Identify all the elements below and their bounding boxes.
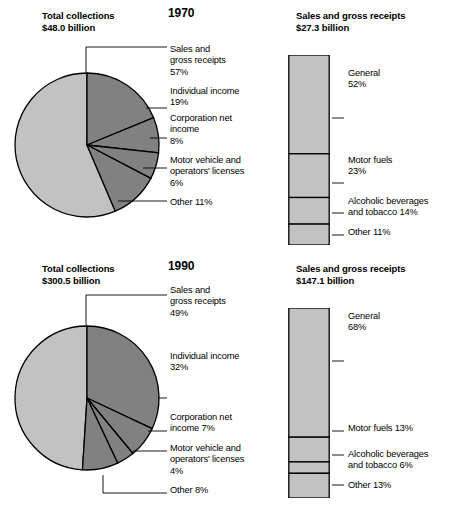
stacked-bar-1970: [288, 55, 330, 245]
right-subtitle: $147.1 billion: [296, 275, 354, 286]
bar-label-1970-3-line-0: Other 11%: [348, 227, 390, 237]
bar-label-1990-0: General68%: [348, 311, 380, 334]
bar-label-1970-2: Alcoholic beveragesand tobacco 14%: [348, 196, 428, 219]
pie-label-1970-2-line-1: income: [170, 124, 199, 134]
bar-label-1990-2-line-0: Alcoholic beverages: [348, 449, 428, 459]
bar-label-1990-2: Alcoholic beveragesand tobacco 6%: [348, 449, 428, 472]
bar-label-1970-0: General52%: [348, 68, 380, 91]
pie-leader-0: [86, 295, 167, 325]
panel-1990-year: 1990: [168, 261, 194, 273]
bar-segment-0: [289, 55, 329, 154]
pie-label-1970-1-line-0: Individual income: [170, 86, 239, 96]
pie-label-1990-2: Corporation netincome 7%: [170, 412, 232, 435]
pie-label-1990-0-line-1: gross receipts: [170, 296, 226, 306]
pie-label-1990-4: Other 8%: [170, 485, 208, 496]
pie-label-1990-0-line-0: Sales and: [170, 285, 210, 295]
stacked-bar-1990: [288, 308, 330, 498]
left-subtitle: $48.0 billion: [42, 22, 95, 33]
panel-1990-left-heading: Total collections$300.5 billion: [42, 263, 115, 286]
pie-label-1970-0-line-0: Sales and: [170, 44, 210, 54]
left-subtitle: $300.5 billion: [42, 275, 100, 286]
bar-label-1970-0-line-0: General: [348, 68, 380, 78]
bar-segment-3: [289, 224, 329, 245]
pie-svg: [12, 323, 162, 473]
bar-label-1990-0-line-1: 68%: [348, 322, 366, 332]
bar-label-1990-3: Other 13%: [348, 480, 391, 491]
bar-segment-0: [289, 308, 329, 437]
pie-leader-4: [103, 475, 167, 493]
pie-label-1970-1-line-1: 19%: [170, 97, 188, 107]
bar-label-1970-2-line-0: Alcoholic beverages: [348, 196, 428, 206]
pie-chart-1990: [12, 323, 162, 473]
pie-chart-1970: [12, 70, 162, 220]
bar-label-1970-1-line-0: Motor fuels: [348, 155, 392, 165]
pie-label-1990-3: Motor vehicle andoperators' licenses4%: [170, 443, 244, 477]
pie-label-1990-4-line-0: Other 8%: [170, 485, 208, 495]
pie-label-1990-0-line-2: 49%: [170, 308, 188, 318]
bar-segment-1: [289, 154, 329, 198]
bar-label-1970-0-line-1: 52%: [348, 79, 366, 89]
pie-label-1970-4-line-0: Other 11%: [170, 197, 212, 207]
pie-label-1970-0: Sales andgross receipts57%: [170, 44, 226, 78]
bar-svg: [288, 308, 330, 498]
pie-label-1970-3: Motor vehicle andoperators' licenses6%: [170, 155, 244, 189]
right-subtitle: $27.3 billion: [296, 22, 349, 33]
pie-label-1970-0-line-2: 57%: [170, 67, 188, 77]
bar-label-1990-1-line-0: Motor fuels 13%: [348, 423, 413, 433]
panel-1970-left-heading: Total collections$48.0 billion: [42, 10, 115, 33]
right-title: Sales and gross receipts: [296, 263, 406, 274]
pie-slice-0: [15, 326, 87, 470]
pie-label-1970-2-line-2: 8%: [170, 136, 183, 146]
bar-label-1970-3: Other 11%: [348, 227, 390, 238]
pie-label-1990-3-line-0: Motor vehicle and: [170, 443, 241, 453]
pie-label-1970-1: Individual income19%: [170, 86, 239, 109]
pie-label-1970-0-line-1: gross receipts: [170, 55, 226, 65]
bar-label-1990-1: Motor fuels 13%: [348, 423, 413, 434]
bar-svg: [288, 55, 330, 245]
pie-label-1990-1-line-1: 32%: [170, 362, 188, 372]
bar-label-1990-2-line-1: and tobacco 6%: [348, 460, 413, 470]
pie-label-1990-3-line-2: 4%: [170, 466, 183, 476]
pie-label-1990-0: Sales andgross receipts49%: [170, 285, 226, 319]
pie-label-1970-3-line-1: operators' licenses: [170, 166, 244, 176]
pie-label-1990-2-line-1: income 7%: [170, 423, 215, 433]
panel-1990: Total collections$300.5 billion 1990 Sal…: [0, 253, 458, 505]
right-title: Sales and gross receipts: [296, 10, 406, 21]
bar-segment-1: [289, 437, 329, 462]
pie-leader-0: [86, 47, 167, 72]
bar-segment-2: [289, 462, 329, 473]
pie-label-1970-4: Other 11%: [170, 197, 212, 208]
pie-label-1990-3-line-1: operators' licenses: [170, 454, 244, 464]
bar-segment-2: [289, 198, 329, 225]
pie-label-1970-2-line-0: Corporation net: [170, 113, 232, 123]
pie-label-1970-3-line-2: 6%: [170, 178, 183, 188]
bar-label-1970-1-line-1: 23%: [348, 166, 366, 176]
bar-label-1970-2-line-1: and tobacco 14%: [348, 207, 418, 217]
panel-1970-right-heading: Sales and gross receipts$27.3 billion: [296, 10, 406, 33]
panel-1970: Total collections$48.0 billion 1970 Sale…: [0, 0, 458, 252]
pie-label-1970-3-line-0: Motor vehicle and: [170, 155, 241, 165]
pie-label-1990-1: Individual income32%: [170, 351, 239, 374]
pie-label-1970-2: Corporation netincome8%: [170, 113, 232, 147]
panel-1990-right-heading: Sales and gross receipts$147.1 billion: [296, 263, 406, 286]
pie-label-1990-2-line-0: Corporation net: [170, 412, 232, 422]
pie-svg: [12, 70, 162, 220]
bar-label-1970-1: Motor fuels23%: [348, 155, 392, 178]
left-title: Total collections: [42, 263, 115, 274]
bar-segment-3: [289, 473, 329, 498]
left-title: Total collections: [42, 10, 115, 21]
panel-1970-year: 1970: [168, 8, 194, 20]
bar-label-1990-0-line-0: General: [348, 311, 380, 321]
bar-label-1990-3-line-0: Other 13%: [348, 480, 391, 490]
pie-label-1990-1-line-0: Individual income: [170, 351, 239, 361]
